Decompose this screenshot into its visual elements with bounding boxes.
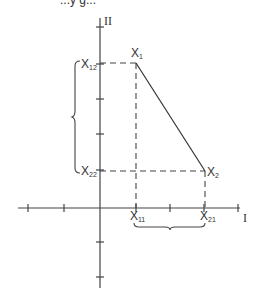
svg-text:21: 21	[208, 216, 216, 223]
vertical-brace	[72, 61, 80, 173]
svg-text:12: 12	[89, 64, 97, 71]
diagram-canvas: ...y g... I II X 1 X 2	[0, 0, 261, 307]
projection-lines	[100, 63, 205, 208]
svg-text:X: X	[130, 209, 138, 223]
svg-text:X: X	[207, 165, 215, 179]
x-axis-label: I	[243, 211, 247, 225]
svg-text:11: 11	[138, 216, 145, 223]
label-x12: X 12	[81, 57, 97, 71]
svg-text:1: 1	[139, 53, 143, 60]
svg-text:22: 22	[89, 171, 97, 178]
y-axis-label: II	[104, 14, 112, 28]
svg-text:X: X	[131, 46, 139, 60]
svg-text:X: X	[81, 164, 89, 178]
label-x22: X 22	[81, 164, 97, 178]
segment-x1-x2	[136, 63, 205, 171]
svg-text:2: 2	[215, 172, 219, 179]
horizontal-brace	[134, 223, 205, 230]
label-x2: X 2	[207, 165, 219, 179]
svg-text:X: X	[81, 57, 89, 71]
label-x1: X 1	[131, 46, 143, 60]
label-x11: X 11	[130, 209, 145, 223]
label-x21: X 21	[200, 209, 216, 223]
caption-fragment: ...y g...	[60, 0, 96, 7]
svg-text:X: X	[200, 209, 208, 223]
y-axis	[96, 18, 104, 288]
caption-text: ...y g...	[60, 0, 96, 7]
